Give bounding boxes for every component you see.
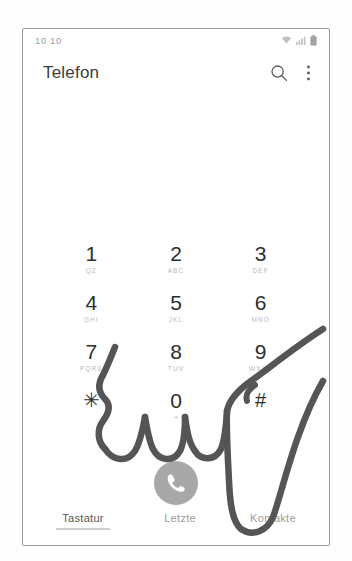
key-1-digit: 1	[85, 241, 97, 266]
scanned-page: 10 10 Telefon	[0, 0, 352, 561]
key-9[interactable]: 9 WXYZ	[230, 339, 292, 383]
key-2-letters: ABC	[168, 267, 185, 275]
key-2-digit: 2	[170, 241, 182, 266]
key-0[interactable]: 0 +	[145, 388, 207, 432]
key-hash-symbol: #	[255, 388, 266, 413]
key-2[interactable]: 2 ABC	[145, 241, 207, 285]
key-4-digit: 4	[85, 290, 97, 315]
page-title: Telefon	[43, 63, 99, 83]
status-bar: 10 10	[23, 29, 329, 51]
key-4-letters: GHI	[84, 316, 99, 324]
key-6-letters: MNO	[251, 316, 269, 324]
key-3[interactable]: 3 DEF	[230, 241, 292, 285]
key-5-letters: JKL	[169, 316, 184, 324]
key-6-digit: 6	[255, 290, 267, 315]
key-6[interactable]: 6 MNO	[230, 290, 292, 334]
key-0-digit: 0	[170, 388, 182, 413]
app-bar: Telefon	[23, 51, 329, 95]
number-display-area[interactable]	[23, 95, 329, 247]
wifi-icon	[281, 36, 292, 45]
tab-tastatur[interactable]: Tastatur	[56, 512, 110, 532]
tab-active-underline	[56, 528, 110, 530]
key-3-digit: 3	[255, 241, 267, 266]
key-star-symbol: ✳	[83, 388, 100, 413]
key-7[interactable]: 7 PQRS	[60, 339, 122, 383]
status-icon-group	[281, 35, 317, 46]
tab-kontakte-label: Kontakte	[250, 512, 296, 524]
key-hash[interactable]: #	[230, 388, 292, 432]
key-8[interactable]: 8 TUV	[145, 339, 207, 383]
key-1[interactable]: 1 QZ	[60, 241, 122, 285]
key-5[interactable]: 5 JKL	[145, 290, 207, 334]
key-9-digit: 9	[255, 339, 267, 364]
key-1-letters: QZ	[86, 267, 97, 275]
app-bar-actions	[270, 64, 311, 82]
key-4[interactable]: 4 GHI	[60, 290, 122, 334]
bottom-tab-bar: Tastatur Letzte Kontakte	[23, 499, 329, 545]
key-5-digit: 5	[170, 290, 182, 315]
key-7-digit: 7	[85, 339, 97, 364]
tab-letzte-label: Letzte	[164, 512, 196, 524]
key-3-letters: DEF	[253, 267, 269, 275]
phone-screen-frame: 10 10 Telefon	[22, 28, 330, 546]
key-0-plus: +	[174, 414, 179, 422]
status-clock: 10 10	[35, 35, 62, 46]
key-8-digit: 8	[170, 339, 182, 364]
dial-keypad: 1 QZ 2 ABC 3 DEF 4 GHI 5 JKL 6 MNO	[23, 241, 329, 432]
tab-tastatur-label: Tastatur	[62, 512, 104, 524]
tab-letzte[interactable]: Letzte	[164, 512, 196, 532]
key-star[interactable]: ✳	[60, 388, 122, 432]
phone-handset-icon	[165, 472, 187, 494]
key-7-letters: PQRS	[80, 365, 103, 373]
tab-kontakte[interactable]: Kontakte	[250, 512, 296, 532]
signal-icon	[296, 36, 306, 45]
battery-icon	[310, 35, 317, 46]
search-icon[interactable]	[270, 64, 288, 82]
key-9-letters: WXYZ	[249, 365, 272, 373]
overflow-menu-icon[interactable]	[306, 64, 311, 82]
key-8-letters: TUV	[168, 365, 184, 373]
